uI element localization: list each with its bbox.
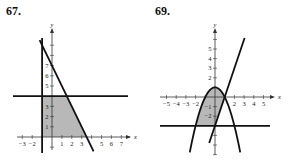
y-tick-label: 7	[45, 62, 49, 69]
x-tick-label: 5	[262, 100, 265, 107]
y-tick-label: 4	[208, 55, 212, 62]
x-axis-label: x	[277, 93, 281, 100]
x-tick-label: 1	[60, 140, 63, 147]
x-axis-label: x	[133, 133, 137, 140]
x-tick-label: 6	[110, 140, 114, 147]
charts-canvas: xy−3−2123567123567 xy−5−4−3−223455432−1−…	[0, 0, 297, 164]
x-tick-label: 5	[100, 140, 103, 147]
y-tick-label: −2	[205, 112, 212, 119]
y-axis-arrow-icon	[213, 28, 217, 33]
y-tick-label: 3	[208, 64, 211, 71]
y-tick-label: 1	[45, 123, 48, 130]
x-tick-label: −3	[19, 140, 26, 147]
x-tick-label: −4	[173, 100, 181, 107]
x-tick-label: 2	[233, 100, 236, 107]
x-tick-label: −3	[182, 100, 189, 107]
x-tick-label: 3	[80, 140, 83, 147]
y-tick-label: 5	[208, 45, 211, 52]
y-tick-label: 5	[45, 82, 48, 89]
x-tick-label: 7	[120, 140, 124, 147]
y-axis-label: y	[213, 21, 217, 28]
y-axis-arrow-icon	[50, 28, 54, 33]
x-tick-label: 2	[70, 140, 73, 147]
x-tick-label: −2	[29, 140, 36, 147]
x-tick-label: 3	[242, 100, 245, 107]
y-tick-label: 2	[45, 113, 48, 120]
chart-67: xy−3−2123567123567	[13, 21, 137, 153]
y-axis-label: y	[50, 21, 54, 28]
x-tick-label: −2	[192, 100, 199, 107]
y-tick-label: 6	[45, 72, 49, 79]
y-tick-label: 2	[208, 74, 211, 81]
x-axis-arrow-icon	[126, 135, 131, 139]
chart-69: xy−5−4−3−223455432−1−2	[160, 21, 281, 155]
y-tick-label: 3	[45, 103, 48, 110]
x-tick-label: −5	[163, 100, 170, 107]
shaded-region	[42, 96, 87, 137]
x-tick-label: 4	[252, 100, 256, 107]
y-tick-label: −1	[205, 103, 212, 110]
x-axis-arrow-icon	[270, 95, 275, 99]
